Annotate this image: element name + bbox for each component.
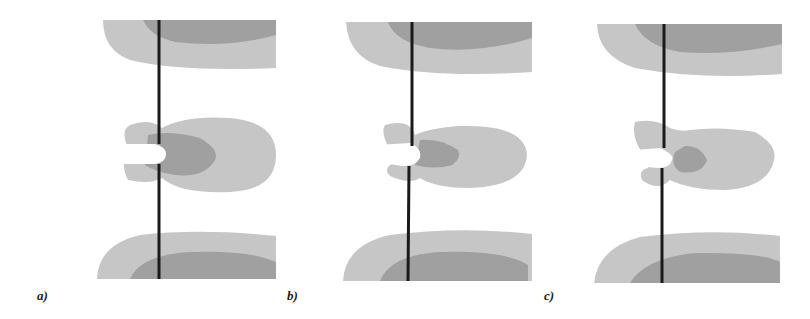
contour-plot-c: [530, 0, 810, 300]
panel-label-c: c): [544, 288, 554, 304]
panel-a: a): [0, 0, 280, 300]
panel-b: b): [270, 0, 550, 300]
contour-plot-b: [270, 0, 550, 300]
panel-label-a: a): [37, 288, 48, 304]
panel-c: c): [530, 0, 810, 300]
panel-label-b: b): [287, 288, 298, 304]
contour-plot-a: [0, 0, 280, 300]
